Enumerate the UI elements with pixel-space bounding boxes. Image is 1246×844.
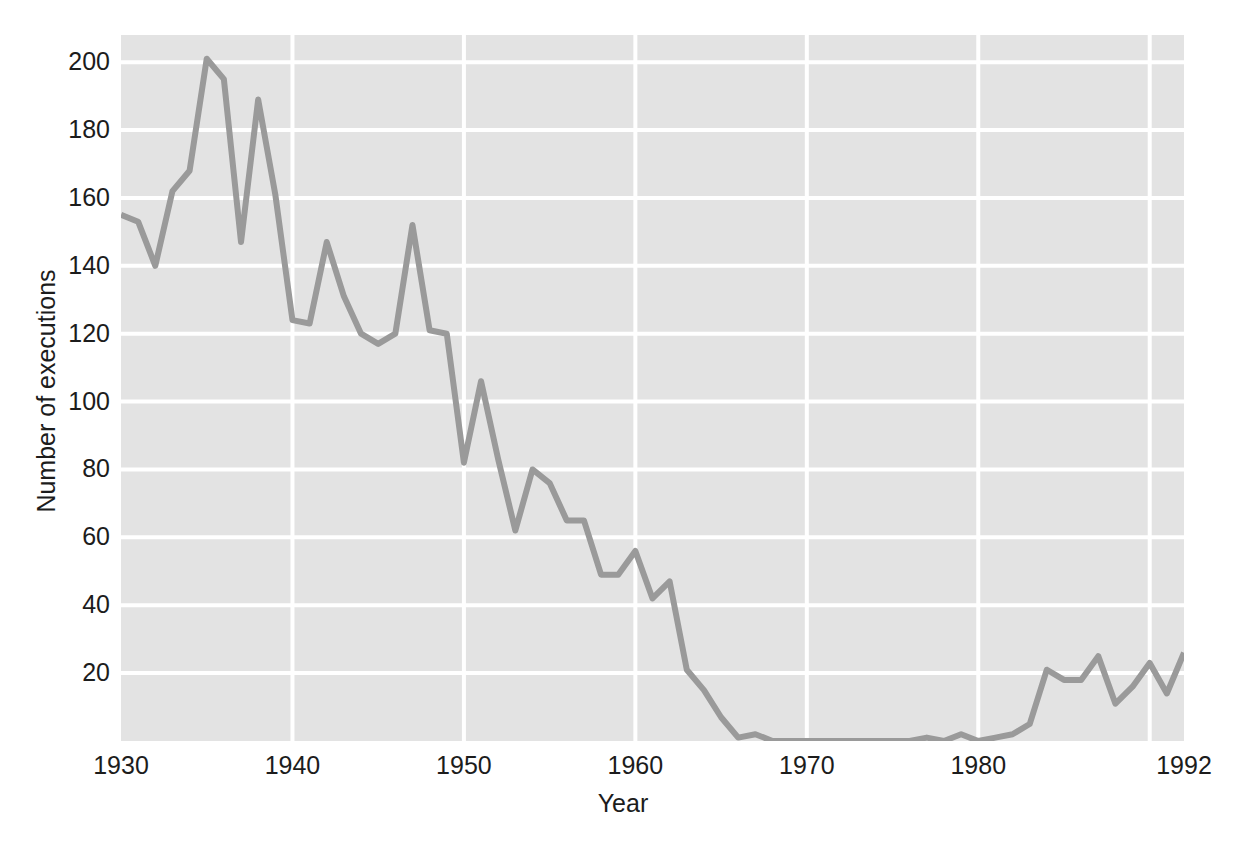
x-tick-label-1960: 1960	[608, 753, 664, 778]
plot-area	[121, 35, 1184, 741]
x-tick-label-1992: 1992	[1156, 753, 1212, 778]
x-tick-label-1940: 1940	[265, 753, 321, 778]
horizontal-gridlines	[121, 62, 1184, 673]
x-tick-label-1950: 1950	[436, 753, 492, 778]
x-axis-title: Year	[0, 790, 1246, 816]
vertical-gridlines	[292, 35, 1149, 741]
y-axis-title: Number of executions	[33, 71, 59, 711]
chart-figure: 20406080100120140160180200 1930194019501…	[0, 0, 1246, 844]
x-tick-label-1930: 1930	[93, 753, 149, 778]
x-axis-tick-labels: 1930194019501960197019801992	[0, 753, 1246, 789]
plot-svg	[121, 35, 1184, 741]
x-tick-label-1980: 1980	[950, 753, 1006, 778]
x-tick-label-1970: 1970	[779, 753, 835, 778]
